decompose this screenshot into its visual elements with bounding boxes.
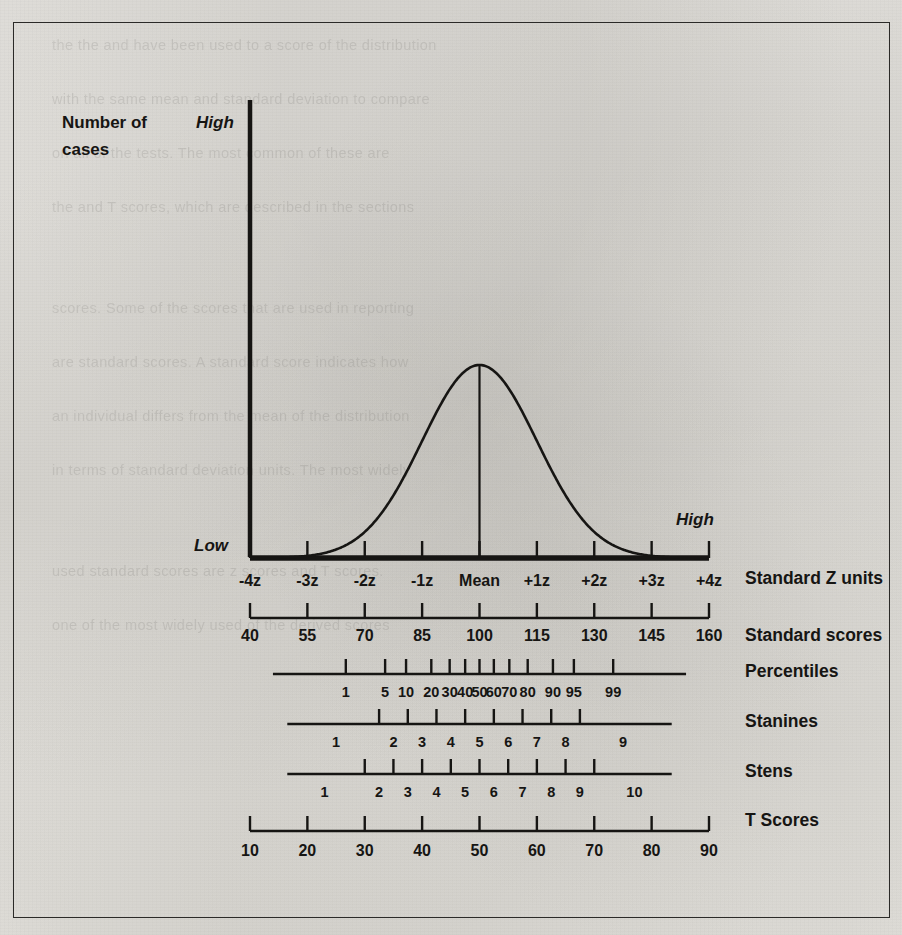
scale-value-label: 60 xyxy=(528,842,546,859)
scale-value-label: 20 xyxy=(423,684,439,700)
scale-value-label: 9 xyxy=(576,784,584,800)
row-label-standard-scores: Standard scores xyxy=(745,625,882,645)
scale-value-label: 40 xyxy=(241,627,259,644)
row-label-stanines: Stanines xyxy=(745,711,818,731)
scale-value-label: 70 xyxy=(585,842,603,859)
scale-row-standard-z-units: -4z-3z-2z-1zMean+1z+2z+3z+4z xyxy=(239,541,722,589)
scale-value-label: 7 xyxy=(533,734,541,750)
scale-value-label: 9 xyxy=(619,734,627,750)
scale-value-label: 5 xyxy=(475,734,483,750)
scale-value-label: +1z xyxy=(524,572,550,589)
scale-value-label: 95 xyxy=(566,684,582,700)
scale-row-stanines: 123456789 xyxy=(287,709,671,750)
scale-row-standard-scores: 40557085100115130145160 xyxy=(241,603,722,644)
scale-value-label: 1 xyxy=(321,784,329,800)
row-label-t-scores: T Scores xyxy=(745,810,819,830)
scale-value-label: 2 xyxy=(375,784,383,800)
scale-value-label: 5 xyxy=(381,684,389,700)
scale-value-label: 50 xyxy=(471,842,489,859)
scale-value-label: 115 xyxy=(524,627,550,644)
scale-value-label: 55 xyxy=(298,627,316,644)
scale-value-label: 1 xyxy=(342,684,350,700)
scale-value-label: 90 xyxy=(700,842,718,859)
scale-value-label: 30 xyxy=(356,842,374,859)
y-axis-label-line1: Number of xyxy=(62,113,147,132)
scale-row-stens: 12345678910 xyxy=(287,759,671,800)
scale-row-t-scores: 102030405060708090 xyxy=(241,816,718,859)
x-axis-high-label: High xyxy=(676,510,714,529)
scale-value-label: 90 xyxy=(545,684,561,700)
scale-value-label: -4z xyxy=(239,572,261,589)
y-axis-high-label: High xyxy=(196,113,234,132)
scale-value-label: 70 xyxy=(501,684,517,700)
scale-value-label: 70 xyxy=(356,627,374,644)
scale-row-percentiles: 151020304050607080909599 xyxy=(273,659,686,700)
scale-value-label: 160 xyxy=(696,627,723,644)
row-label-stens: Stens xyxy=(745,761,793,781)
scale-value-label: -1z xyxy=(411,572,433,589)
scale-value-label: 100 xyxy=(466,627,493,644)
scale-value-label: 85 xyxy=(413,627,431,644)
score-scale-rows: -4z-3z-2z-1zMean+1z+2z+3z+4z405570851001… xyxy=(239,541,723,859)
scale-value-label: 60 xyxy=(486,684,502,700)
scale-value-label: 80 xyxy=(520,684,536,700)
scale-value-label: 99 xyxy=(605,684,621,700)
row-label-standard-z-units: Standard Z units xyxy=(745,568,883,588)
scale-value-label: 40 xyxy=(413,842,431,859)
scale-value-label: 1 xyxy=(332,734,340,750)
normal-distribution-figure: Number of cases High Low High -4z-3z-2z-… xyxy=(0,0,902,935)
scale-value-label: -2z xyxy=(354,572,376,589)
scale-value-label: 20 xyxy=(298,842,316,859)
y-axis-label-line2: cases xyxy=(62,140,109,159)
scale-value-label: +4z xyxy=(696,572,722,589)
scale-value-label: 80 xyxy=(643,842,661,859)
scale-value-label: 4 xyxy=(447,734,455,750)
scale-value-label: 8 xyxy=(547,784,555,800)
scale-value-label: Mean xyxy=(459,572,500,589)
scale-value-label: 3 xyxy=(404,784,412,800)
scale-value-label: 4 xyxy=(432,784,440,800)
scale-value-label: 145 xyxy=(638,627,665,644)
scale-value-label: 2 xyxy=(389,734,397,750)
scale-value-label: +2z xyxy=(581,572,607,589)
scale-value-label: 130 xyxy=(581,627,608,644)
scale-value-label: -3z xyxy=(296,572,318,589)
scale-value-label: 5 xyxy=(461,784,469,800)
scale-value-label: 30 xyxy=(442,684,458,700)
scale-value-label: 10 xyxy=(398,684,414,700)
scale-value-label: 8 xyxy=(562,734,570,750)
scale-value-label: 6 xyxy=(490,784,498,800)
scale-value-label: 6 xyxy=(504,734,512,750)
scale-value-label: 10 xyxy=(626,784,642,800)
scale-value-label: 10 xyxy=(241,842,259,859)
scale-value-label: +3z xyxy=(639,572,665,589)
y-axis-low-label: Low xyxy=(194,536,230,555)
scale-value-label: 7 xyxy=(518,784,526,800)
scale-value-label: 3 xyxy=(418,734,426,750)
row-label-percentiles: Percentiles xyxy=(745,661,839,681)
